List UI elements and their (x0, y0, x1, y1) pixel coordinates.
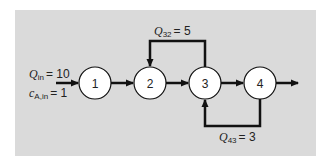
reactor-node-4: 4 (244, 67, 276, 99)
svg-text:1: 1 (92, 77, 99, 91)
recycle-top-label: Q32= 5 (154, 24, 191, 39)
recycle-4-to-3-arrow (205, 99, 260, 126)
reactor-node-3: 3 (189, 67, 221, 99)
reactor-node-1: 1 (79, 67, 111, 99)
svg-text:2: 2 (147, 77, 154, 91)
inlet-flow-label: Qin= 10 (29, 67, 70, 82)
svg-text:4: 4 (257, 77, 264, 91)
inlet-concentration-label: cA,in= 1 (29, 86, 67, 101)
svg-text:3: 3 (202, 77, 209, 91)
reactor-network-diagram: 1 2 3 4 Qin= 10 cA,in= 1 Q32= 5 Q43= 3 (0, 0, 328, 162)
recycle-bottom-label: Q43= 3 (219, 130, 256, 145)
reactor-node-2: 2 (134, 67, 166, 99)
recycle-3-to-2-arrow (150, 41, 205, 67)
